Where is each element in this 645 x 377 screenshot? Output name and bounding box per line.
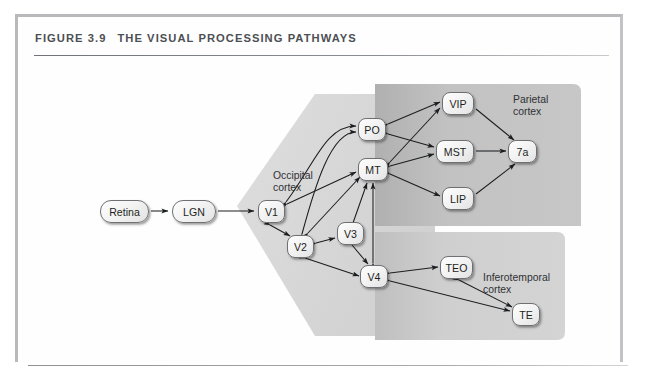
node-teo: TEO: [440, 256, 473, 279]
node-7a: 7a: [508, 140, 537, 163]
node-label: PO: [364, 124, 379, 136]
node-te: TE: [512, 303, 540, 326]
node-v1: V1: [258, 200, 285, 223]
node-label: TEO: [446, 262, 468, 274]
node-vip: VIP: [442, 92, 474, 115]
node-v3: V3: [337, 222, 364, 245]
node-v2: V2: [287, 235, 314, 258]
node-label: Retina: [109, 206, 140, 218]
node-lgn: LGN: [172, 200, 216, 223]
node-label: V3: [344, 228, 357, 240]
region-label-inferotemporal: Inferotemporal cortex: [483, 272, 550, 297]
node-label: TE: [519, 309, 533, 321]
region-label-parietal: Parietal cortex: [513, 94, 548, 119]
node-label: 7a: [517, 146, 529, 158]
node-label: LGN: [183, 206, 205, 218]
footer-divider: [28, 365, 628, 366]
node-lip: LIP: [442, 187, 474, 210]
region-label-occipital: Occipital cortex: [273, 170, 313, 195]
visual-pathways-diagram: Occipital cortex Parietal cortex Inferot…: [15, 14, 623, 362]
node-label: VIP: [449, 98, 466, 110]
node-mt: MT: [358, 158, 388, 181]
node-label: V4: [368, 271, 381, 283]
node-v4: V4: [360, 265, 388, 288]
region-parietal: [375, 84, 581, 226]
node-label: LIP: [450, 193, 466, 205]
node-po: PO: [358, 118, 386, 141]
node-label: V2: [294, 241, 307, 253]
node-retina: Retina: [100, 200, 149, 223]
node-label: MT: [365, 164, 380, 176]
node-label: MST: [444, 146, 466, 158]
node-label: V1: [265, 206, 278, 218]
node-mst: MST: [436, 140, 474, 163]
